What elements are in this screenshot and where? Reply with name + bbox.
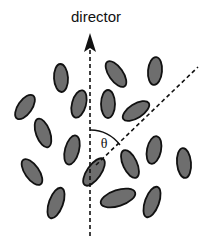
director-label: director bbox=[71, 8, 121, 25]
angle-theta-label: θ bbox=[101, 136, 108, 151]
nematic-director-diagram: director θ bbox=[0, 0, 209, 241]
molecule-ellipse bbox=[101, 90, 115, 118]
molecule-ellipse bbox=[53, 64, 68, 93]
